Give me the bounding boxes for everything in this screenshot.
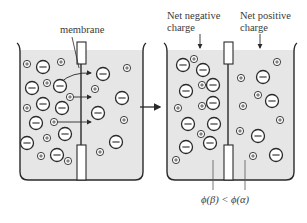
anion-icon (207, 97, 220, 110)
anion-icon (37, 98, 50, 111)
anion-icon (21, 137, 34, 150)
membrane-diagram: membrane Net negative charge Net positiv… (0, 0, 307, 223)
cation-icon (172, 156, 179, 163)
left-beaker: membrane (17, 24, 146, 180)
anion-icon (97, 68, 110, 81)
right-membrane-top-block (224, 42, 233, 64)
membrane-label: membrane (60, 24, 105, 35)
cation-icon (37, 152, 44, 159)
cation-icon (273, 58, 280, 65)
net-negative-label-line2: charge (167, 22, 195, 33)
cation-icon (198, 102, 205, 109)
anion-icon (59, 128, 72, 141)
anion-icon (177, 59, 190, 72)
cation-icon (239, 102, 246, 109)
cation-icon (254, 91, 261, 98)
anion-icon (266, 95, 279, 108)
cation-icon (50, 118, 57, 125)
anion-icon (204, 137, 217, 150)
left-membrane-top-block (77, 42, 86, 64)
cation-icon (43, 79, 50, 86)
cation-icon (174, 104, 181, 111)
anion-icon (116, 92, 129, 105)
cation-icon (23, 104, 30, 111)
anion-icon (54, 80, 67, 93)
anion-icon (270, 149, 283, 162)
anion-icon (182, 118, 195, 131)
cation-icon (96, 148, 103, 155)
anion-icon (197, 64, 210, 77)
cation-icon (91, 85, 98, 92)
cation-icon (120, 116, 127, 123)
cation-icon (64, 157, 71, 164)
net-negative-label-line1: Net negative (167, 10, 221, 21)
anion-icon (26, 82, 39, 95)
potential-inequality: ϕ(β) < ϕ(α) (201, 194, 249, 206)
right-membrane-bottom-block (224, 145, 233, 180)
cation-icon (23, 60, 30, 67)
cation-icon (57, 58, 64, 65)
cation-icon (237, 74, 244, 81)
anion-icon (207, 79, 220, 92)
right-beaker: Net negative charge Net positive charge … (164, 10, 297, 206)
anion-icon (208, 118, 221, 131)
anion-icon (37, 61, 50, 74)
anion-icon (180, 141, 193, 154)
anion-icon (257, 71, 270, 84)
net-positive-label-line2: charge (240, 22, 268, 33)
cation-icon (276, 116, 283, 123)
anion-icon (110, 136, 123, 149)
anion-icon (56, 102, 69, 115)
anion-icon (30, 117, 43, 130)
cation-icon (190, 55, 197, 62)
left-membrane-bottom-block (77, 145, 86, 180)
anion-icon (92, 107, 105, 120)
net-positive-label-line1: Net positive (240, 10, 291, 21)
anion-icon (51, 149, 64, 162)
cation-icon (66, 93, 73, 100)
cation-icon (123, 64, 130, 71)
cation-icon (197, 130, 204, 137)
cation-icon (43, 134, 50, 141)
cation-icon (198, 81, 205, 88)
anion-icon (252, 130, 265, 143)
anion-icon (180, 85, 193, 98)
cation-icon (236, 127, 243, 134)
cation-icon (249, 152, 256, 159)
